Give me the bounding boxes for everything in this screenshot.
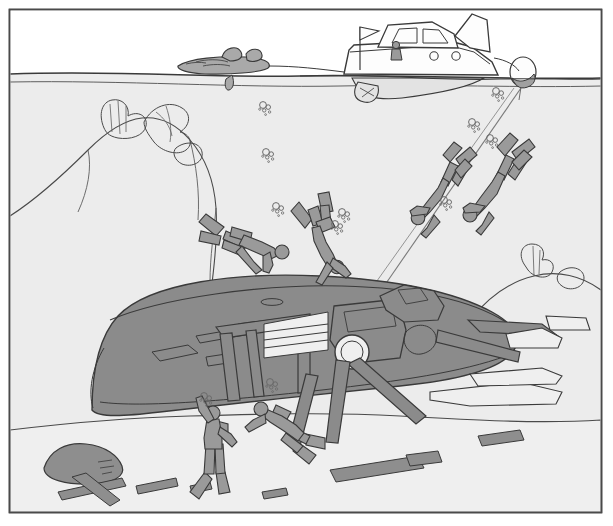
diver-head	[275, 245, 289, 259]
diver-head	[254, 402, 268, 416]
illustration-canvas: Scuba divers exploring a sunken shipwrec…	[0, 0, 613, 526]
underwater-shipwreck-scene: Scuba divers exploring a sunken shipwrec…	[0, 0, 613, 526]
boat-porthole	[430, 52, 438, 60]
boat-porthole	[452, 52, 460, 60]
